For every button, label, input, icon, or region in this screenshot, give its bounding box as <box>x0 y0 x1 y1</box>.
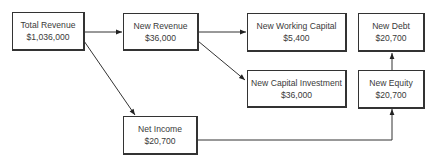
node-value: $36,000 <box>281 89 312 101</box>
node-value: $36,000 <box>145 32 176 44</box>
arrow-new-revenue-to-capital-investment <box>198 41 245 80</box>
node-new-revenue: New Revenue $36,000 <box>123 13 199 51</box>
node-label: New Capital Investment <box>251 77 342 89</box>
node-value: $20,700 <box>375 32 406 44</box>
node-label: New Working Capital <box>256 20 336 32</box>
node-label: Net Income <box>138 123 182 135</box>
node-label: New Revenue <box>134 20 188 32</box>
node-value: $5,400 <box>283 32 309 44</box>
node-label: Total Revenue <box>21 19 76 31</box>
node-value: $20,700 <box>375 89 406 101</box>
node-net-income: Net Income $20,700 <box>123 116 198 155</box>
node-new-equity: New Equity $20,700 <box>358 70 425 109</box>
node-total-revenue: Total Revenue $1,036,000 <box>12 12 85 51</box>
node-new-capital-investment: New Capital Investment $36,000 <box>247 70 347 108</box>
node-label: New Equity <box>369 77 412 89</box>
arrow-total-to-net-income <box>84 41 135 115</box>
arrow-net-income-to-new-equity <box>197 109 392 140</box>
node-value: $20,700 <box>144 135 175 147</box>
node-new-working-capital: New Working Capital $5,400 <box>247 13 347 52</box>
node-new-debt: New Debt $20,700 <box>358 13 425 52</box>
node-label: New Debt <box>372 20 410 32</box>
node-value: $1,036,000 <box>26 31 69 43</box>
